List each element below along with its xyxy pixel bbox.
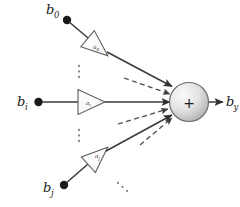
gain-label-top-subscript: 0 [97,47,100,52]
input-signal-label-top-subscript: 0 [54,10,60,20]
dashed-arrow-lower-2 [140,118,172,145]
figure-canvas: a 0 b 0 a i b i a j b j [0,0,240,207]
ellipsis-corner [117,182,128,192]
dashed-arrow-lower-2-line [140,118,172,145]
gain-triangle-middle-shape [78,90,105,115]
input-terminal-dot-middle[interactable] [34,98,42,106]
input-branch-top: a 0 b 0 [46,2,172,87]
input-wire-bottom-left [67,164,89,183]
ellipsis-lower [78,129,80,142]
input-signal-label-middle-subscript: i [25,102,28,112]
input-wire-bottom-right [106,115,172,151]
input-branch-middle: a i b i [17,90,170,115]
ellipsis-upper [78,65,80,78]
summation-node[interactable]: + [170,83,209,122]
input-branch-bottom: a j b j [43,115,172,198]
output-label-subscript: y [233,102,239,112]
input-wire-top-right [107,52,172,87]
dashed-arrow-upper [124,78,170,94]
plus-icon: + [183,95,195,111]
dashed-arrow-upper-line [124,78,170,94]
neuron-summing-diagram: a 0 b 0 a i b i a j b j [0,0,240,207]
output-branch: b y [209,94,239,112]
